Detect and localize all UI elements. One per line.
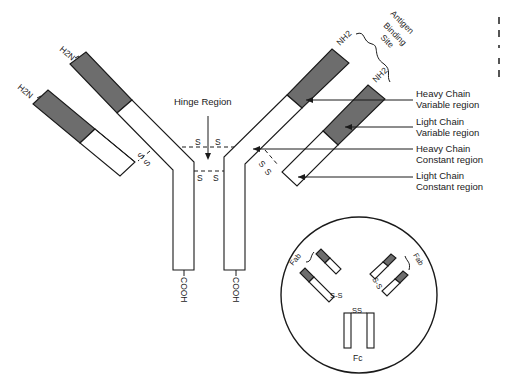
hinge-ss-upper-right: S: [215, 137, 221, 147]
hinge-ss-lower-left: S: [197, 173, 203, 183]
clipped-edge-mark: [498, 30, 500, 37]
right-heavy-constant-region: [224, 95, 302, 270]
left-light-constant-region: [80, 129, 135, 176]
callout-light-constant: Light Chain Constant region: [298, 170, 483, 192]
fragment-inset: Fab S-S Fab S-S SS Fc: [281, 217, 437, 373]
right-ss-bond-upper: S: [257, 158, 268, 169]
svg-text:Light Chain: Light Chain: [416, 116, 464, 127]
hinge-region-label: Hinge Region: [174, 96, 232, 107]
clipped-edge-mark: [498, 58, 500, 64]
left-heavy-constant-region: [117, 100, 194, 270]
svg-text:Light Chain: Light Chain: [416, 170, 464, 181]
right-heavy-nterm-label: NH2: [334, 28, 353, 47]
clipped-edge-mark: [498, 45, 500, 48]
svg-text:Constant region: Constant region: [416, 181, 483, 192]
fc-ss-label: SS: [352, 306, 362, 315]
svg-text:Heavy Chain: Heavy Chain: [416, 88, 470, 99]
left-heavy-nterm-label: H2N: [58, 44, 77, 63]
left-light-variable-region: [33, 90, 95, 143]
svg-text:Heavy Chain: Heavy Chain: [416, 143, 470, 154]
callout-heavy-constant: Heavy Chain Constant region: [253, 143, 483, 165]
right-light-constant-region: [282, 131, 338, 186]
clipped-edge-mark: [498, 17, 500, 24]
clipped-edge-mark: [498, 70, 500, 77]
antibody-diagram: H2N H2N S S NH2 NH2 S S Hinge Region S S…: [0, 0, 508, 389]
left-ss-bond-lower: S: [141, 157, 152, 168]
left-light-nterm-label: H2N: [16, 82, 35, 101]
callout-heavy-variable: Heavy Chain Variable region: [306, 88, 479, 110]
svg-text:Variable region: Variable region: [416, 99, 479, 110]
right-light-nterm-label: NH2: [370, 65, 389, 84]
left-cterm-label: COOH: [179, 277, 189, 303]
right-heavy-variable-region: [287, 49, 349, 108]
right-light-variable-region: [323, 85, 385, 145]
hinge-ss-lower-right: S: [213, 173, 219, 183]
svg-text:Variable region: Variable region: [416, 127, 479, 138]
svg-text:Constant region: Constant region: [416, 154, 483, 165]
callout-light-variable: Light Chain Variable region: [345, 116, 479, 138]
fc-label: Fc: [353, 353, 363, 363]
hinge-ss-upper-left: S: [195, 137, 201, 147]
left-heavy-variable-region: [70, 52, 132, 113]
left-fab-ss-label: S-S: [330, 291, 343, 300]
right-ss-bond-lower: S: [263, 166, 274, 177]
right-cterm-label: COOH: [231, 277, 241, 303]
